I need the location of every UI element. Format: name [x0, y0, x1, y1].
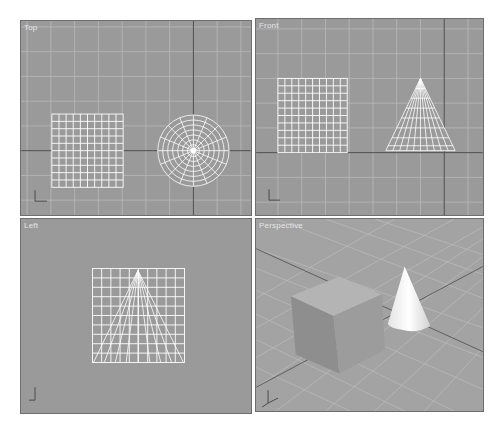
top-view-canvas: [21, 21, 251, 215]
axis-tripod-icon: [35, 190, 47, 201]
axis-tripod-icon: [262, 390, 278, 407]
plane-wireframe: [278, 78, 347, 152]
viewport-label-front[interactable]: Front: [259, 21, 279, 30]
viewport-label-left[interactable]: Left: [24, 221, 38, 230]
viewport-label-top[interactable]: Top: [24, 23, 38, 32]
axis-tripod-icon: [29, 387, 35, 400]
left-view-canvas: [21, 219, 251, 413]
cone-object: [388, 267, 431, 332]
viewport-left[interactable]: Left: [20, 218, 252, 414]
plane-wireframe: [52, 114, 123, 187]
viewport-label-perspective[interactable]: Perspective: [259, 221, 303, 230]
front-view-canvas: [256, 19, 483, 215]
plane-wireframe: [92, 268, 184, 362]
perspective-view-canvas: [256, 219, 483, 411]
viewport-perspective[interactable]: Perspective: [255, 218, 484, 412]
cone-top-wireframe: [158, 115, 229, 186]
viewport-top[interactable]: Top: [20, 20, 252, 216]
viewport-front[interactable]: Front: [255, 18, 484, 216]
box-object: [291, 276, 385, 373]
